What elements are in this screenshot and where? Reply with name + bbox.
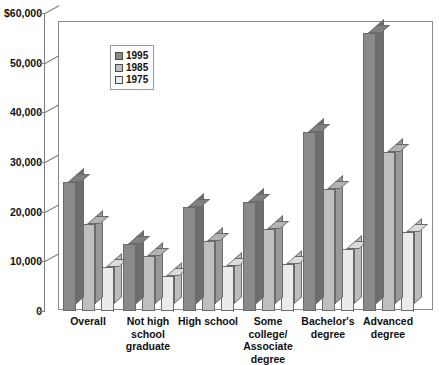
bar-1995-3 xyxy=(183,207,196,311)
x-axis-category-label: Advanceddegree xyxy=(343,315,433,340)
bar-top xyxy=(207,233,229,241)
bar-side xyxy=(95,210,103,304)
bar-1995-6 xyxy=(363,33,376,311)
bar-top xyxy=(128,236,150,244)
legend-item-1995: 1995 xyxy=(115,50,148,61)
bar-face xyxy=(63,182,76,311)
bar-side xyxy=(256,188,264,304)
bar-side xyxy=(196,193,204,304)
bar-top xyxy=(387,144,409,152)
bar-face xyxy=(363,33,376,311)
legend-swatch-icon xyxy=(115,64,123,72)
bar-face xyxy=(183,207,196,311)
bar-top xyxy=(68,174,90,182)
bar-top xyxy=(87,216,109,224)
bar-1995-1 xyxy=(63,182,76,311)
bar-1995-5 xyxy=(303,132,316,311)
bar-side xyxy=(335,175,343,304)
legend-item-label: 1975 xyxy=(126,75,148,85)
x-axis-category-label-line: degree xyxy=(223,353,313,365)
bar-top xyxy=(267,221,289,229)
bar-side xyxy=(76,168,84,304)
bar-side xyxy=(376,19,384,304)
legend-item-label: 1985 xyxy=(126,63,148,73)
bar-face xyxy=(243,202,256,311)
x-axis-category-label-line: graduate xyxy=(103,340,193,353)
x-axis-category-label-line: degree xyxy=(343,328,433,341)
bar-1995-4 xyxy=(243,202,256,311)
bar-top xyxy=(188,199,210,207)
bar-face xyxy=(303,132,316,311)
legend-swatch-icon xyxy=(115,76,123,84)
bar-top xyxy=(308,124,330,132)
bar-1995-2 xyxy=(123,244,136,311)
x-axis-category-label-line: Associate xyxy=(223,340,313,353)
legend-item-label: 1995 xyxy=(126,51,148,61)
legend-item-1985: 1985 xyxy=(115,62,148,73)
bar-top xyxy=(368,25,390,33)
bar-top xyxy=(147,248,169,256)
bar-face xyxy=(123,244,136,311)
bar-top xyxy=(327,181,349,189)
legend-item-1975: 1975 xyxy=(115,74,148,85)
x-axis-category-label-line: school xyxy=(103,328,193,341)
bar-side xyxy=(395,138,403,304)
legend-swatch-icon xyxy=(115,52,123,60)
bar-side xyxy=(316,118,324,304)
bar-top xyxy=(406,224,428,232)
bar-top xyxy=(248,194,270,202)
x-axis-category-label-line: Advanced xyxy=(343,315,433,328)
legend: 199519851975 xyxy=(110,45,154,90)
